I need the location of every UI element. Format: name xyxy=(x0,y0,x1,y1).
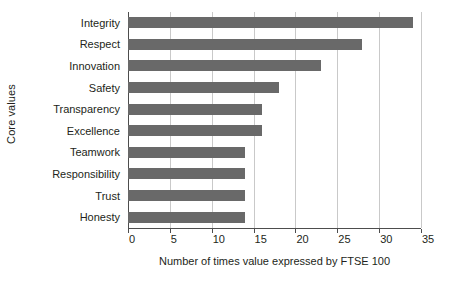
y-axis-tick-label: Integrity xyxy=(22,12,125,34)
bars-layer xyxy=(128,12,421,228)
bar-slot xyxy=(128,206,421,228)
x-axis-title: Number of times value expressed by FTSE … xyxy=(128,255,421,267)
x-axis-tick-label: 20 xyxy=(296,233,308,245)
x-axis-tick-label: 10 xyxy=(213,233,225,245)
bar-slot xyxy=(128,163,421,185)
y-axis-tick-label: Excellence xyxy=(22,120,125,142)
bar xyxy=(128,60,321,71)
bar xyxy=(128,39,362,50)
plot-area xyxy=(128,12,421,228)
y-axis-title: Core values xyxy=(0,0,22,228)
y-axis-title-label: Core values xyxy=(5,84,17,144)
y-axis-tick-label: Innovation xyxy=(22,55,125,77)
y-axis-tick-label: Trust xyxy=(22,185,125,207)
x-axis-tick-label: 25 xyxy=(338,233,350,245)
horizontal-bar-chart: Core values IntegrityRespectInnovationSa… xyxy=(0,0,462,294)
bar xyxy=(128,82,279,93)
bar-slot xyxy=(128,98,421,120)
bar xyxy=(128,125,262,136)
y-axis-tick-label: Honesty xyxy=(22,206,125,228)
x-axis-tick-label: 15 xyxy=(255,233,267,245)
x-axis-tick-labels: 05101520253035 xyxy=(128,233,421,249)
bar-slot xyxy=(128,142,421,164)
bar-slot xyxy=(128,55,421,77)
bar-slot xyxy=(128,120,421,142)
gridline xyxy=(421,12,422,228)
x-axis-tick-label: 0 xyxy=(129,233,135,245)
y-axis-tick-label: Responsibility xyxy=(22,163,125,185)
x-axis-tick-label: 30 xyxy=(380,233,392,245)
x-axis-tick-label: 5 xyxy=(171,233,177,245)
y-axis-tick-label: Teamwork xyxy=(22,142,125,164)
x-axis-title-label: Number of times value expressed by FTSE … xyxy=(159,255,390,267)
y-axis-tick-label: Transparency xyxy=(22,98,125,120)
bar-slot xyxy=(128,77,421,99)
bar xyxy=(128,190,245,201)
bar xyxy=(128,168,245,179)
bar xyxy=(128,104,262,115)
y-axis-tick-labels: IntegrityRespectInnovationSafetyTranspar… xyxy=(22,12,125,228)
bar-slot xyxy=(128,12,421,34)
bar-slot xyxy=(128,34,421,56)
bar-slot xyxy=(128,185,421,207)
bar xyxy=(128,212,245,223)
bar xyxy=(128,17,413,28)
y-axis-tick-label: Respect xyxy=(22,34,125,56)
y-axis-tick-label: Safety xyxy=(22,77,125,99)
bar xyxy=(128,147,245,158)
x-axis-tick-label: 35 xyxy=(422,233,434,245)
